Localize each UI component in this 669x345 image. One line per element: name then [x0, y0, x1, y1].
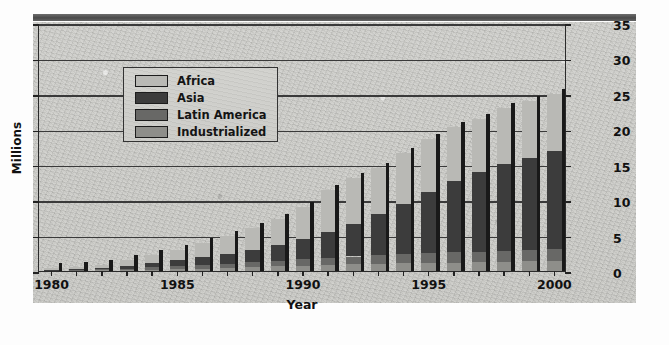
- bar-shadow: [210, 238, 214, 271]
- bar-segment-asia: [421, 192, 436, 253]
- axis-tick: [33, 272, 39, 273]
- bar-shadow: [386, 163, 390, 271]
- bar-segment-africa: [69, 267, 84, 269]
- bar-segment-latin-america: [522, 250, 537, 261]
- bar-segment-latin-america: [195, 265, 210, 269]
- bar-shadow: [537, 96, 541, 271]
- x-tick-label: 1990: [286, 277, 321, 292]
- axis-tick: [565, 131, 571, 132]
- x-tick-label: 1980: [34, 277, 69, 292]
- x-axis-tick: [202, 271, 203, 276]
- y-tick-label-right: 25: [613, 88, 653, 103]
- bar-segment-africa: [120, 260, 135, 265]
- axis-tick: [565, 60, 571, 61]
- x-axis-tick: [554, 271, 555, 276]
- bar-shadow: [486, 114, 490, 271]
- axis-tick: [565, 95, 571, 96]
- bar-segment-industrialized: [447, 263, 462, 272]
- x-axis-tick: [126, 271, 127, 276]
- bar-segment-latin-america: [396, 254, 411, 263]
- bar-1992: [346, 178, 361, 271]
- axis-tick: [565, 24, 571, 25]
- x-axis-tick: [353, 271, 354, 276]
- bar-segment-africa: [271, 219, 286, 245]
- bar-1987: [220, 236, 235, 271]
- bar-segment-industrialized: [497, 262, 512, 271]
- figure-top-band: [33, 14, 636, 21]
- x-axis-tick: [302, 271, 303, 276]
- bar-segment-industrialized: [547, 261, 562, 271]
- y-tick-label-right: 35: [613, 18, 653, 33]
- bar-shadow: [436, 134, 440, 271]
- bar-1984: [145, 255, 160, 271]
- bar-1986: [195, 243, 210, 271]
- bar-segment-asia: [296, 239, 311, 259]
- bar-segment-latin-america: [371, 255, 386, 264]
- bar-segment-latin-america: [245, 262, 260, 267]
- bar-1994: [396, 153, 411, 271]
- x-axis-tick: [453, 271, 454, 276]
- bar-segment-africa: [245, 228, 260, 250]
- bar-shadow: [562, 89, 566, 271]
- bar-segment-africa: [396, 153, 411, 203]
- legend-label: Latin America: [177, 108, 267, 122]
- bar-segment-africa: [296, 207, 311, 239]
- bar-segment-asia: [371, 214, 386, 255]
- bar-shadow: [310, 202, 314, 271]
- bar-segment-latin-america: [421, 253, 436, 263]
- bar-1983: [120, 260, 135, 271]
- bar-segment-latin-america: [346, 257, 361, 265]
- x-axis-tick: [76, 271, 77, 276]
- bar-segment-latin-america: [220, 264, 235, 268]
- bar-segment-africa: [421, 139, 436, 192]
- bar-shadow: [260, 223, 264, 271]
- bar-segment-asia: [447, 181, 462, 252]
- y-tick-label-right: 0: [613, 266, 653, 281]
- bar-1990: [296, 207, 311, 271]
- bar-1989: [271, 219, 286, 271]
- x-axis-tick: [277, 271, 278, 276]
- x-axis-tick: [101, 271, 102, 276]
- x-axis-tick: [378, 271, 379, 276]
- bar-segment-asia: [271, 245, 286, 261]
- axis-tick: [565, 166, 571, 167]
- bar-shadow: [461, 122, 465, 271]
- bar-1998: [497, 108, 512, 271]
- bar-segment-industrialized: [396, 263, 411, 271]
- bar-segment-industrialized: [371, 264, 386, 271]
- bar-segment-asia: [321, 232, 336, 258]
- bar-1985: [170, 250, 185, 271]
- x-axis-tick: [529, 271, 530, 276]
- bar-1997: [472, 119, 487, 271]
- bar-1999: [522, 101, 537, 271]
- bar-shadow: [159, 250, 163, 271]
- chart-legend: AfricaAsiaLatin AmericaIndustrialized: [123, 67, 278, 142]
- bar-segment-africa: [195, 243, 210, 257]
- x-axis-tick: [428, 271, 429, 276]
- bar-segment-asia: [547, 151, 562, 250]
- bar-segment-asia: [472, 172, 487, 252]
- bar-segment-industrialized: [346, 264, 361, 271]
- y-tick-label-right: 15: [613, 159, 653, 174]
- x-axis-tick: [151, 271, 152, 276]
- axis-tick: [565, 237, 571, 238]
- x-axis-tick: [327, 271, 328, 276]
- bar-shadow: [185, 245, 189, 271]
- bar-1988: [245, 228, 260, 271]
- x-axis-tick: [227, 271, 228, 276]
- bar-segment-latin-america: [271, 261, 286, 267]
- bar-1993: [371, 168, 386, 271]
- bar-segment-africa: [522, 101, 537, 158]
- bar-segment-asia: [95, 268, 110, 270]
- bar-1995: [421, 139, 436, 271]
- bar-shadow: [235, 231, 239, 271]
- bar-shadow: [411, 148, 415, 271]
- y-tick-label-right: 20: [613, 124, 653, 139]
- bar-segment-africa: [447, 127, 462, 181]
- bar-segment-latin-america: [296, 259, 311, 265]
- bar-segment-africa: [547, 94, 562, 151]
- bar-segment-asia: [396, 204, 411, 254]
- legend-item-africa: Africa: [135, 73, 277, 89]
- bar-segment-africa: [321, 190, 336, 233]
- x-axis-tick: [478, 271, 479, 276]
